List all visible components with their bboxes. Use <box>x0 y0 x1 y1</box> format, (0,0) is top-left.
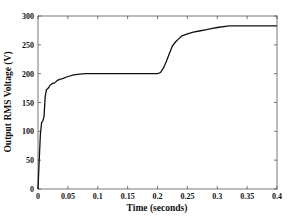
x-tick-label: 0.1 <box>93 192 103 201</box>
x-tick-label: 0.35 <box>240 192 254 201</box>
y-axis-title: Output RMS Voltage (V) <box>3 51 14 152</box>
x-tick-label: 0.05 <box>61 192 75 201</box>
plot-area <box>38 16 277 189</box>
y-tick-label: 150 <box>22 99 34 108</box>
x-tick-label: 0 <box>36 192 40 201</box>
x-tick-label: 0.15 <box>121 192 135 201</box>
y-tick-label: 200 <box>22 70 34 79</box>
line-chart: 00.050.10.150.20.250.30.350.4 0501001502… <box>0 0 291 219</box>
x-tick-label: 0.4 <box>272 192 282 201</box>
y-tick-label: 100 <box>22 127 34 136</box>
x-tick-label: 0.25 <box>180 192 194 201</box>
y-tick-label: 50 <box>26 156 34 165</box>
y-tick-label: 0 <box>30 185 34 194</box>
y-tick-label: 250 <box>22 41 34 50</box>
y-tick-label: 300 <box>22 12 34 21</box>
x-tick-label: 0.2 <box>153 192 163 201</box>
x-axis-title: Time (seconds) <box>127 203 188 214</box>
x-tick-label: 0.3 <box>212 192 222 201</box>
